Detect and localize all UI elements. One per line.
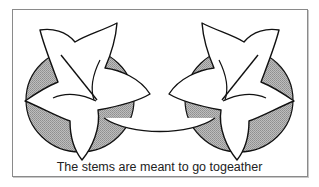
figure-caption: The stems are meant to go togeather [0, 160, 319, 174]
right-leaf-icon [169, 23, 294, 160]
right-leaf-shape [169, 23, 294, 160]
left-leaf-icon [25, 23, 150, 160]
leaves-illustration [0, 0, 319, 187]
left-leaf-shape [25, 23, 150, 160]
